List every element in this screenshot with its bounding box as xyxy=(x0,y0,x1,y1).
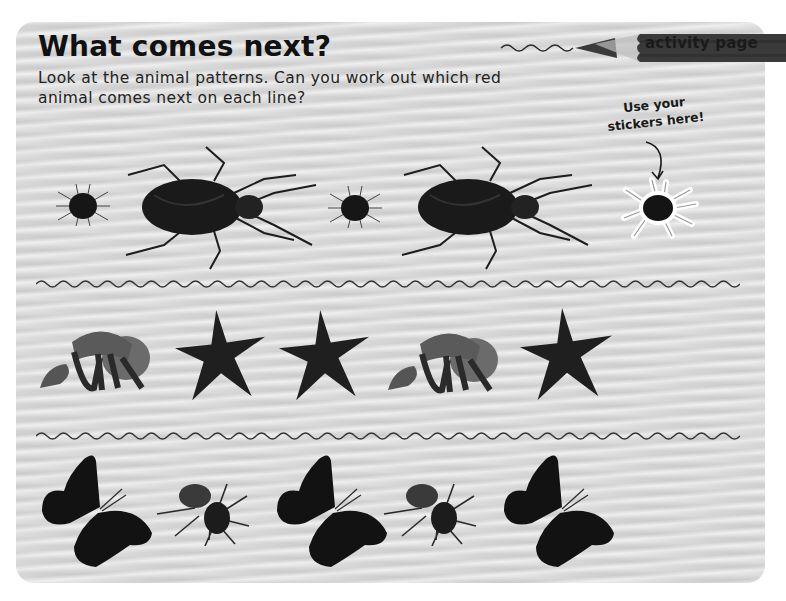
bee-icon xyxy=(382,480,486,546)
wavy-divider xyxy=(36,279,740,289)
beetle-icon xyxy=(400,145,596,270)
mite-icon xyxy=(324,184,386,230)
starfish-icon xyxy=(276,308,374,404)
bee-icon xyxy=(155,480,259,546)
hermit-crab-icon xyxy=(386,324,504,396)
beetle-icon xyxy=(124,145,320,270)
flying-row xyxy=(0,445,786,570)
hermit-crab-icon xyxy=(38,322,156,394)
butterfly-icon xyxy=(275,451,391,567)
mite-icon xyxy=(52,182,114,228)
page-title: What comes next? xyxy=(38,30,331,63)
butterfly-icon xyxy=(40,451,156,567)
wavy-divider xyxy=(36,431,740,441)
starfish-icon xyxy=(518,306,616,404)
mite-sticker-icon[interactable] xyxy=(620,176,702,244)
butterfly-icon xyxy=(502,451,618,567)
activity-page-badge: activity page xyxy=(645,34,758,52)
instructions-text: Look at the animal patterns. Can you wor… xyxy=(38,68,508,108)
starfish-icon xyxy=(172,308,270,404)
bugs-row xyxy=(0,140,786,270)
sea-row xyxy=(0,300,786,410)
